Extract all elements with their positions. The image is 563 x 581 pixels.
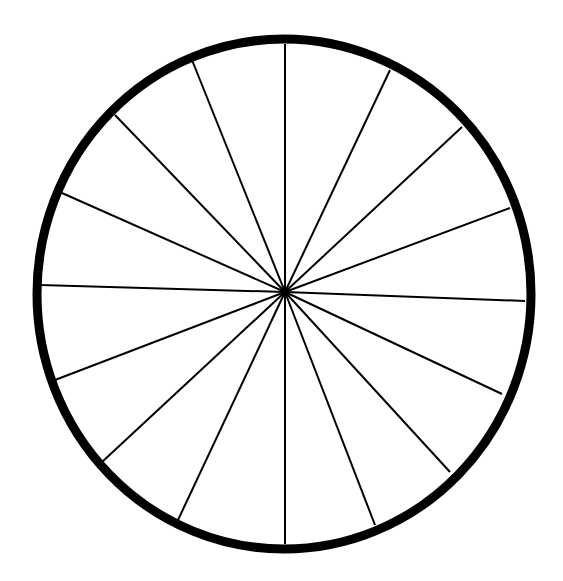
spoke-line bbox=[285, 292, 525, 301]
spoke-line bbox=[40, 285, 285, 292]
sector-wheel-diagram bbox=[0, 0, 563, 581]
spoke-line bbox=[115, 115, 285, 292]
spoke-line bbox=[285, 127, 462, 292]
center-hub bbox=[281, 288, 289, 296]
spoke-line bbox=[285, 292, 450, 472]
spoke-line bbox=[102, 292, 285, 462]
